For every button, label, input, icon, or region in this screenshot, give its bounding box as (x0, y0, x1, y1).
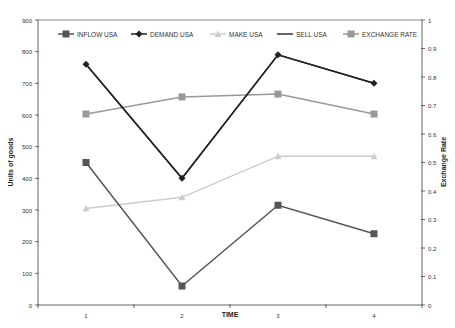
series-line (86, 94, 374, 114)
y-tick-label: 300 (22, 208, 33, 214)
y-tick-label: 600 (22, 113, 33, 119)
series-line (86, 55, 374, 179)
y2-tick-label: 0.1 (428, 274, 437, 280)
series-line (86, 163, 374, 287)
y2-axis-label: Exchange Rate (440, 137, 448, 187)
y-tick-label: 800 (22, 49, 33, 55)
y-tick-label: 700 (22, 81, 33, 87)
y-tick-label: 100 (22, 271, 33, 277)
square-marker-icon (179, 283, 186, 290)
legend-label: DEMAND USA (150, 31, 194, 38)
legend-item: MAKE USA (210, 31, 263, 38)
y2-tick-label: 0 (428, 303, 432, 309)
square-marker-icon (348, 31, 355, 38)
legend-label: EXCHANGE RATE (362, 31, 418, 38)
legend: INFLOW USADEMAND USAMAKE USASELL USAEXCH… (58, 31, 418, 38)
y2-tick-label: 0.4 (428, 189, 437, 195)
y2-tick-label: 0.3 (428, 217, 437, 223)
series-make-usa (83, 153, 378, 212)
y2-tick-label: 0.7 (428, 103, 437, 109)
y-axis-label: Units of goods (7, 137, 15, 186)
square-marker-icon (275, 202, 282, 209)
series-group (83, 51, 378, 289)
square-marker-icon (275, 91, 282, 98)
square-marker-icon (371, 111, 378, 118)
square-marker-icon (83, 111, 90, 118)
y2-tick-label: 0.6 (428, 132, 437, 138)
x-tick-label: 3 (276, 313, 280, 319)
x-tick-label: 2 (180, 313, 184, 319)
legend-label: MAKE USA (229, 31, 263, 38)
y-tick-label: 400 (22, 176, 33, 182)
series-demand-usa (83, 51, 378, 182)
legend-item: EXCHANGE RATE (343, 31, 418, 38)
legend-item: DEMAND USA (131, 31, 194, 38)
x-tick-label: 1 (84, 313, 88, 319)
legend-label: INFLOW USA (77, 31, 118, 38)
square-marker-icon (83, 159, 90, 166)
y-tick-label: 900 (22, 18, 33, 24)
diamond-marker-icon (136, 31, 143, 38)
y-tick-label: 0 (29, 303, 33, 309)
y2-tick-label: 0.5 (428, 160, 437, 166)
y-tick-label: 500 (22, 144, 33, 150)
legend-label: SELL USA (296, 31, 327, 38)
y-tick-label: 200 (22, 239, 33, 245)
series-inflow-usa (83, 159, 378, 290)
x-tick-label: 4 (372, 313, 376, 319)
legend-item: INFLOW USA (58, 31, 118, 38)
y2-tick-label: 1 (428, 18, 432, 24)
square-marker-icon (179, 93, 186, 100)
y2-tick-label: 0.8 (428, 75, 437, 81)
square-marker-icon (371, 230, 378, 237)
y2-tick-label: 0.9 (428, 46, 437, 52)
line-chart: 010020030040050060070080090000.10.20.30.… (0, 0, 455, 328)
series-line (86, 156, 374, 208)
y2-tick-label: 0.2 (428, 246, 437, 252)
square-marker-icon (63, 31, 70, 38)
legend-item: SELL USA (277, 31, 327, 38)
diamond-marker-icon (371, 80, 378, 87)
x-axis-label: TIME (222, 311, 239, 318)
